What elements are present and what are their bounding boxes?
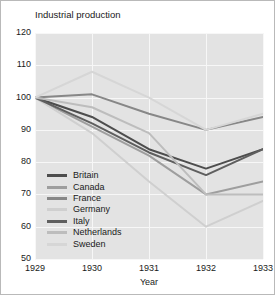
- legend-label: Italy: [73, 216, 90, 227]
- gridline-vertical: [263, 33, 264, 259]
- legend-label: Canada: [73, 182, 105, 193]
- legend-label: Germany: [73, 204, 110, 215]
- legend-swatch-icon: [47, 231, 67, 234]
- chart-title: Industrial production: [35, 9, 121, 20]
- y-axis-tick: 50: [1, 253, 31, 263]
- legend-label: Sweden: [73, 239, 106, 250]
- x-axis-tick: 1931: [129, 263, 169, 273]
- chart-figure: Industrial production 506070809010011012…: [0, 0, 275, 295]
- legend-swatch-icon: [47, 186, 67, 189]
- legend-label: Britain: [73, 170, 99, 181]
- legend-item-sweden[interactable]: Sweden: [47, 238, 122, 249]
- gridline-horizontal: [35, 259, 263, 260]
- legend-swatch-icon: [47, 197, 67, 200]
- x-axis-tick: 1932: [186, 263, 226, 273]
- legend-label: France: [73, 193, 101, 204]
- legend-item-britain[interactable]: Britain: [47, 170, 122, 181]
- legend-label: Netherlands: [73, 227, 122, 238]
- legend-swatch-icon: [47, 174, 67, 177]
- y-axis-tick: 60: [1, 221, 31, 231]
- legend-swatch-icon: [47, 208, 67, 211]
- chart-legend: BritainCanadaFranceGermanyItalyNetherlan…: [45, 168, 126, 252]
- x-axis-tick: 1933: [243, 263, 275, 273]
- legend-swatch-icon: [47, 220, 67, 223]
- y-axis-tick: 100: [1, 92, 31, 102]
- y-axis-tick: 80: [1, 156, 31, 166]
- y-axis-tick: 90: [1, 124, 31, 134]
- x-axis-tick: 1929: [15, 263, 55, 273]
- y-axis-tick: 70: [1, 188, 31, 198]
- y-axis-tick: 110: [1, 59, 31, 69]
- x-axis-tick: 1930: [72, 263, 112, 273]
- legend-swatch-icon: [47, 243, 67, 246]
- legend-item-france[interactable]: France: [47, 193, 122, 204]
- y-axis-tick: 120: [1, 27, 31, 37]
- x-axis-label: Year: [35, 277, 263, 287]
- legend-item-italy[interactable]: Italy: [47, 216, 122, 227]
- legend-item-canada[interactable]: Canada: [47, 181, 122, 192]
- series-line-sweden: [35, 72, 263, 130]
- legend-item-germany[interactable]: Germany: [47, 204, 122, 215]
- legend-item-netherlands[interactable]: Netherlands: [47, 227, 122, 238]
